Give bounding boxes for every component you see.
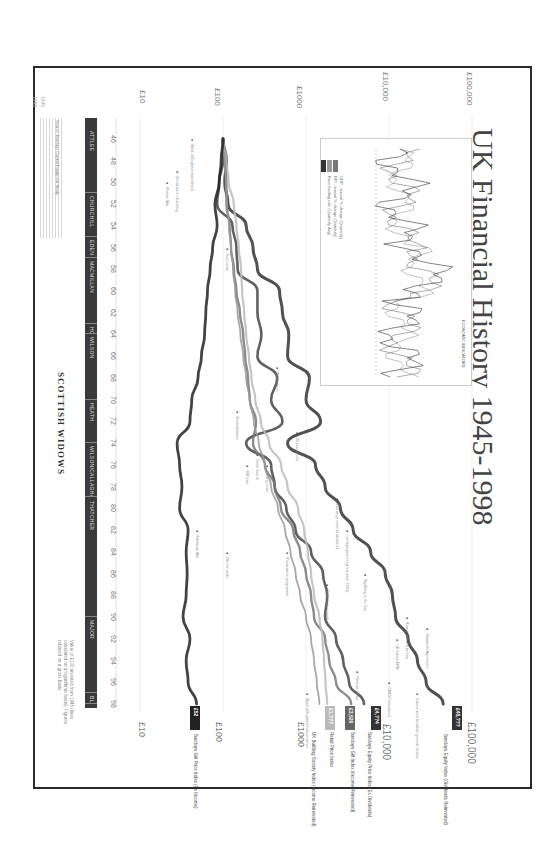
year-tick: 96 (110, 678, 117, 686)
event-annotation: Korean War (165, 182, 170, 206)
pm-segment: HOME (85, 324, 97, 335)
year-tick: 80 (110, 504, 117, 512)
event-annotation: Stock market crash (325, 584, 330, 620)
event-annotation: Miners' strike (225, 552, 230, 578)
event-annotation: Big Bang in the City (363, 574, 368, 611)
scottish-widows-logo: SCOTTISH WIDOWS (56, 372, 66, 475)
event-annotation: Mexican Crisis (355, 671, 360, 700)
end-value-equity-price-index: £4,??4 (371, 706, 381, 730)
event-annotation: Maastricht Agreement (425, 628, 430, 668)
year-tick: 76 (110, 461, 117, 469)
pm-segment: MAJOR (85, 617, 97, 693)
series-label-equity-price-index: Barclays Equity Price Index (Ex Dividend… (366, 732, 372, 817)
event-annotation: Sterling crisis (265, 465, 270, 492)
event-annotation: Privatisation programme (285, 552, 290, 596)
year-tick: 66 (110, 352, 117, 360)
year-tick: 86 (110, 570, 117, 578)
pm-segment: HEATH (85, 400, 97, 443)
series-label-gilt-index: Barclays Gilt Index (Income Reinvested) (349, 732, 355, 812)
year-tick: 70 (110, 396, 117, 404)
event-annotation: IMF loan (245, 465, 250, 484)
pm-segment: THATCHER (85, 498, 97, 618)
year-tick: 78 (110, 483, 117, 491)
event-annotation: CREST introduced (387, 682, 392, 717)
event-annotation: Labour wins landslide general election (415, 693, 420, 759)
series-label-equity-index: Barclays Equity Index (Dividends Reinves… (442, 734, 448, 825)
event-annotation: Falklands War (195, 530, 200, 558)
event-annotation: Bank of England nationalised (190, 139, 195, 191)
pm-name: CHURCHILL (89, 196, 95, 227)
event-annotation: Oil price shock (295, 432, 300, 461)
pm-name: EDEN (89, 240, 95, 255)
year-tick: 72 (110, 417, 117, 425)
event-annotation: Decimalisation (235, 411, 240, 440)
prime-ministers-band: ATTLEECHURCHILLEDENMACMILLANHOMEWILSONHE… (85, 118, 97, 708)
series-label-retail-price-index: Retail Price Index (328, 732, 334, 767)
pm-name: ATTLEE (89, 131, 95, 151)
year-tick: 54 (110, 222, 117, 230)
year-tick: 48 (110, 157, 117, 165)
event-annotation: Kuwait invaded by Iraq (405, 617, 410, 659)
pm-segment: BLAIR (85, 693, 97, 704)
inset-legend-gdp: GDP - annual % change (Quarterly) (339, 176, 344, 239)
series-label-gilt-price-index: Barclays Gilt Price Index (Ex Income) (192, 734, 198, 809)
pm-segment: EDEN (85, 237, 97, 259)
pm-name: BLAIR (89, 696, 95, 704)
source-notes-text (40, 118, 64, 238)
event-annotation: Devaluation (275, 367, 280, 391)
end-value-gilt-price-index: £52 (190, 706, 200, 730)
year-tick: 94 (110, 657, 117, 665)
year-tick: 56 (110, 244, 117, 252)
pm-name: WILSON (89, 337, 95, 359)
pm-name: MACMILLAN (89, 261, 95, 293)
end-value-retail-price-index: £1,??? (325, 706, 335, 730)
pm-segment: MACMILLAN (85, 258, 97, 323)
year-tick: 62 (110, 309, 117, 317)
inset-legend-base-rate: Base lending rate (Quarterly Avg) (327, 176, 332, 235)
year-tick: 60 (110, 287, 117, 295)
year-tick: 46 (110, 135, 117, 143)
pm-name: HEATH (89, 403, 95, 421)
year-tick: 84 (110, 548, 117, 556)
year-tick: 74 (110, 439, 117, 447)
event-annotation: Devaluation of sterling (175, 171, 180, 212)
year-tick: 68 (110, 374, 117, 382)
side-note: Source: Barclays Capital Equity-Gilt Stu… (55, 120, 60, 195)
end-value-gilt-index: £3,520 (345, 706, 355, 730)
inset-legend-swatch-rpi (333, 160, 338, 172)
year-tick: 58 (110, 265, 117, 273)
event-annotation: North Sea oil (255, 454, 260, 480)
year-tick: 90 (110, 613, 117, 621)
event-annotation: Unemployment highest since 1930s (345, 530, 350, 592)
event-annotation: UK leaves ERM (395, 639, 400, 670)
inset-indicator-line (385, 149, 434, 377)
year-tick: 98 (110, 700, 117, 708)
line-chart (0, 0, 555, 847)
event-annotation: Suez crisis (225, 248, 230, 271)
inset-title: ECONOMIC INDICATORS (461, 320, 466, 367)
footnote: Value of £100 invested from 1945 (lines … (56, 640, 74, 730)
pm-segment: WILSON (85, 334, 97, 399)
pm-name: THATCHER (89, 501, 95, 530)
year-tick: 82 (110, 526, 117, 534)
end-value-equity-index: £45,??? (452, 706, 462, 730)
series-line-5 (177, 139, 223, 704)
pm-name: HOME (89, 327, 95, 335)
year-tick: 88 (110, 591, 117, 599)
pm-name: WILSON/CALLAGHAN (89, 446, 95, 497)
inset-legend-swatch-gdp (327, 160, 332, 172)
year-tick: 52 (110, 200, 117, 208)
pm-segment: WILSON/CALLAGHAN (85, 443, 97, 497)
year-tick: 92 (110, 635, 117, 643)
inset-legend-swatch-base-rate (321, 160, 326, 172)
year-tick: 64 (110, 330, 117, 338)
event-annotation: Bank of England independence (305, 693, 310, 748)
pm-name: MAJOR (89, 620, 95, 639)
pm-segment: CHURCHILL (85, 193, 97, 236)
inset-legend-rpi: RPI - annual % change (Quarterly) (333, 176, 338, 237)
inset-indicator-line (380, 149, 442, 377)
event-annotation: Exchange controls abolished (335, 498, 340, 549)
pm-segment: ATTLEE (85, 128, 97, 193)
year-tick: 50 (110, 178, 117, 186)
series-label-building-society-index: UK Building Society Index (Income Reinve… (310, 732, 316, 827)
